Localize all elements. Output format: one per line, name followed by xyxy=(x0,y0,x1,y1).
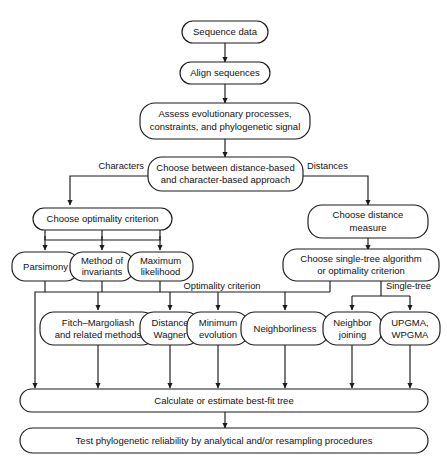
node-minimum-evolution-line1: Minimum xyxy=(199,317,238,328)
node-test-reliability: Test phylogenetic reliability by analyti… xyxy=(20,428,428,453)
node-neighbor-joining-line1: Neighbor xyxy=(333,317,372,328)
node-minimum-evolution-line2: evolution xyxy=(199,329,237,340)
node-upgma-line2: WPGMA xyxy=(392,329,430,340)
node-distance-wagner-line2: Wagner xyxy=(154,329,187,340)
node-choose-single-tree-line1: Choose single-tree algorithm xyxy=(300,253,422,264)
node-method-invariants-line1: Method of xyxy=(81,255,124,266)
node-choose-approach-line2: and character-based approach xyxy=(161,174,290,185)
node-assess-line1: Assess evolutionary processes, xyxy=(158,108,291,119)
node-choose-optimality-criterion: Choose optimality criterion xyxy=(33,208,172,230)
node-choose-approach-line1: Choose between distance-based xyxy=(156,162,294,173)
node-align-sequences-label: Align sequences xyxy=(190,67,260,78)
node-method-invariants-line2: invariants xyxy=(82,266,123,277)
edge-label-single-tree: Single-tree xyxy=(386,281,431,291)
flowchart-container: Characters Distances Optimality criterio… xyxy=(0,0,447,465)
node-choose-approach: Choose between distance-based and charac… xyxy=(148,157,303,191)
node-calculate-best-fit-tree: Calculate or estimate best-fit tree xyxy=(20,389,428,412)
node-maximum-likelihood-line1: Maximum xyxy=(140,255,181,266)
node-choose-single-tree-line2: or optimality criterion xyxy=(317,265,405,276)
node-distance-wagner-line1: Distance xyxy=(152,317,189,328)
edge-characters-branch xyxy=(70,176,148,205)
node-choose-distance-measure: Choose distance measure xyxy=(308,205,428,238)
node-choose-optimality-label: Choose optimality criterion xyxy=(47,213,159,224)
node-fitch-line1: Fitch–Margoliash xyxy=(62,317,134,328)
node-maximum-likelihood-line2: likelihood xyxy=(141,266,181,277)
node-upgma-wpgma: UPGMA, WPGMA xyxy=(380,312,440,345)
edge-label-characters: Characters xyxy=(99,161,145,171)
node-parsimony: Parsimony xyxy=(12,252,79,281)
node-sequence-data: Sequence data xyxy=(182,21,268,43)
node-neighbor-joining: Neighbor joining xyxy=(323,312,382,345)
node-neighborliness-label: Neighborliness xyxy=(254,323,317,334)
node-minimum-evolution: Minimum evolution xyxy=(187,312,249,345)
node-choose-distance-line1: Choose distance xyxy=(333,209,404,220)
node-choose-distance-line2: measure xyxy=(350,222,387,233)
node-align-sequences: Align sequences xyxy=(180,62,270,84)
node-neighborliness: Neighborliness xyxy=(241,312,329,345)
node-fitch-margoliash: Fitch–Margoliash and related methods xyxy=(40,312,156,345)
edge-label-optimality-criterion: Optimality criterion xyxy=(184,281,261,291)
node-upgma-line1: UPGMA, xyxy=(391,317,428,328)
node-parsimony-label: Parsimony xyxy=(23,261,68,272)
node-sequence-data-label: Sequence data xyxy=(193,26,258,37)
flowchart-svg: Characters Distances Optimality criterio… xyxy=(0,0,447,465)
node-maximum-likelihood: Maximum likelihood xyxy=(128,252,193,281)
node-assess-evolutionary: Assess evolutionary processes, constrain… xyxy=(140,103,310,139)
node-assess-line2: constraints, and phylogenetic signal xyxy=(150,121,301,132)
node-calculate-label: Calculate or estimate best-fit tree xyxy=(154,395,293,406)
node-test-reliability-label: Test phylogenetic reliability by analyti… xyxy=(76,435,373,446)
edge-distances-branch xyxy=(303,176,368,205)
edge-label-distances: Distances xyxy=(307,161,348,171)
node-fitch-line2: and related methods xyxy=(55,329,142,340)
node-choose-single-tree: Choose single-tree algorithm or optimali… xyxy=(283,249,439,281)
node-method-of-invariants: Method of invariants xyxy=(70,252,134,281)
node-neighbor-joining-line2: joining xyxy=(338,329,366,340)
